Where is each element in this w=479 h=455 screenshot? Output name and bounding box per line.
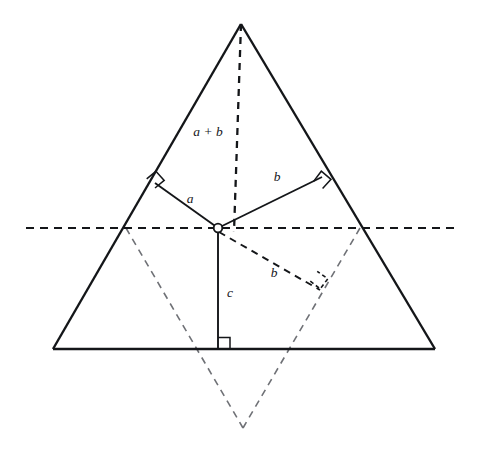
incenter-point <box>214 224 223 233</box>
exradius-to-reflected-side <box>219 232 320 290</box>
triangle-right-side <box>241 24 435 349</box>
label-apex-altitude: a + b <box>193 124 223 139</box>
label-inradius-right-upper: b <box>274 169 281 184</box>
reflected-construction-group <box>126 228 360 428</box>
triangle-group <box>53 24 435 349</box>
reflected-right-side <box>243 228 360 428</box>
geometry-canvas: a + b a b b c <box>0 0 479 455</box>
triangle-left-side <box>53 24 241 349</box>
label-altitude-to-base: c <box>227 285 233 300</box>
altitude-from-apex <box>234 24 241 232</box>
geometry-figure: a + b a b b c <box>0 0 479 455</box>
reflected-left-side <box>126 228 243 428</box>
inradius-to-right-side <box>218 177 322 228</box>
label-inradius-left: a <box>187 191 194 206</box>
right-angle-base-foot <box>218 338 230 350</box>
label-exradius-lower: b <box>271 265 278 280</box>
